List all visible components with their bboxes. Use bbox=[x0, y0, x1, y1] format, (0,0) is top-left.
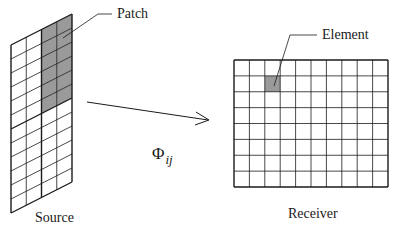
form-factor-arrow bbox=[87, 102, 209, 125]
source-panel bbox=[11, 14, 72, 213]
phi-symbol: Φ bbox=[152, 144, 164, 163]
element-label: Element bbox=[322, 28, 369, 42]
source-label: Source bbox=[35, 211, 74, 225]
form-factor-label: Φij bbox=[152, 145, 172, 162]
receiver-panel bbox=[234, 60, 388, 187]
phi-subscript: ij bbox=[165, 152, 172, 167]
receiver-element-cell bbox=[265, 76, 280, 92]
receiver-label: Receiver bbox=[288, 207, 338, 221]
patch-label: Patch bbox=[117, 7, 148, 21]
